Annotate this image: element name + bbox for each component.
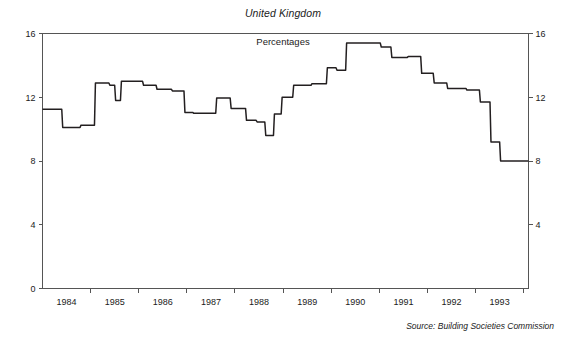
chart-source-note: Source: Building Societies Commission bbox=[406, 321, 554, 331]
chart-axes: 0448812121616198419851986198719881989199… bbox=[25, 29, 545, 307]
y-tick-label-left: 0 bbox=[30, 284, 35, 294]
y-tick-label-right: 8 bbox=[536, 156, 541, 166]
x-tick-label: 1992 bbox=[441, 297, 461, 307]
series-line-mortgage-interest-rate bbox=[43, 43, 529, 161]
y-tick-label-left: 16 bbox=[25, 29, 35, 39]
chart-plot-area: 0448812121616198419851986198719881989199… bbox=[0, 0, 566, 339]
x-tick-label: 1985 bbox=[105, 297, 125, 307]
chart-container: United Kingdom Percentages 0448812121616… bbox=[0, 0, 566, 339]
chart-series bbox=[43, 43, 529, 161]
x-tick-label: 1987 bbox=[201, 297, 221, 307]
y-tick-label-left: 8 bbox=[30, 156, 35, 166]
x-tick-label: 1993 bbox=[490, 297, 510, 307]
x-tick-label: 1986 bbox=[153, 297, 173, 307]
y-tick-label-right: 4 bbox=[536, 220, 541, 230]
x-tick-label: 1988 bbox=[249, 297, 269, 307]
y-tick-label-right: 16 bbox=[536, 29, 546, 39]
x-tick-label: 1984 bbox=[57, 297, 77, 307]
x-tick-label: 1989 bbox=[297, 297, 317, 307]
y-tick-label-left: 4 bbox=[30, 220, 35, 230]
x-tick-label: 1990 bbox=[345, 297, 365, 307]
y-tick-label-left: 12 bbox=[25, 93, 35, 103]
x-tick-label: 1991 bbox=[393, 297, 413, 307]
y-tick-label-right: 12 bbox=[536, 93, 546, 103]
